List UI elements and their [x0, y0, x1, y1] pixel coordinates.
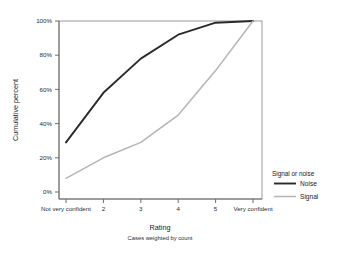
x-tick-label-5: 5	[214, 205, 218, 212]
legend-label-noise: Noise	[300, 180, 317, 187]
x-axis-title: Rating	[150, 223, 171, 232]
y-tick-label-80: 80%	[40, 51, 53, 58]
y-tick-label-0: 0%	[43, 188, 52, 195]
chart-canvas: 0% 20% 40% 60% 80% 100% Not very confide…	[0, 0, 340, 260]
x-tick-label-2: 2	[102, 205, 106, 212]
x-tick-label-6: Very confident	[233, 205, 272, 212]
y-axis-title: Cumulative percent	[11, 79, 20, 141]
y-tick-label-100: 100%	[36, 17, 52, 24]
x-tick-label-4: 4	[176, 205, 180, 212]
legend-label-signal: Signal	[300, 193, 319, 201]
y-tick-label-60: 60%	[40, 86, 53, 93]
legend-item-noise[interactable]: Noise	[274, 180, 317, 187]
x-tick-label-3: 3	[139, 205, 143, 212]
cumulative-percent-chart: 0% 20% 40% 60% 80% 100% Not very confide…	[0, 0, 340, 260]
legend-item-signal[interactable]: Signal	[274, 193, 319, 201]
y-tick-label-40: 40%	[40, 120, 53, 127]
x-axis-ticks: Not very confident 2 3 4 5 Very confiden…	[41, 199, 273, 212]
y-tick-label-20: 20%	[40, 154, 53, 161]
x-tick-label-1: Not very confident	[41, 205, 91, 212]
x-axis-subtitle: Cases weighted by count	[128, 235, 193, 241]
legend-title: Signal or noise	[272, 170, 315, 178]
y-axis-ticks: 0% 20% 40% 60% 80% 100%	[36, 17, 59, 195]
legend: Signal or noise Noise Signal	[272, 170, 319, 201]
